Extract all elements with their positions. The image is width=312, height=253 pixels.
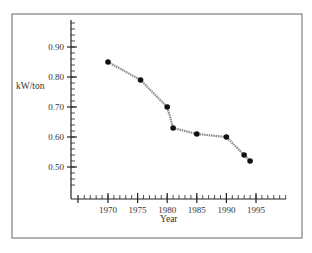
data-point: [164, 104, 170, 110]
x-tick-label: 1995: [247, 205, 266, 215]
data-point: [170, 125, 176, 131]
x-tick-label: 1975: [129, 205, 148, 215]
data-point: [241, 152, 247, 158]
data-point: [247, 158, 253, 164]
x-tick-label: 1985: [188, 205, 207, 215]
y-axis-label: kW/ton: [16, 81, 45, 91]
x-tick-label: 1970: [99, 205, 118, 215]
y-tick-label: 0.60: [48, 132, 64, 142]
data-point: [224, 134, 230, 140]
x-tick-label: 1990: [217, 205, 236, 215]
line-chart: 0.500.600.700.800.9019701975198019851990…: [0, 0, 312, 253]
y-tick-label: 0.90: [48, 42, 64, 52]
data-point: [138, 77, 144, 83]
data-point: [194, 131, 200, 137]
y-tick-label: 0.50: [48, 162, 64, 172]
y-tick-label: 0.70: [48, 102, 64, 112]
x-axis-label: Year: [160, 214, 178, 224]
data-point: [105, 59, 111, 65]
y-tick-label: 0.80: [48, 72, 64, 82]
